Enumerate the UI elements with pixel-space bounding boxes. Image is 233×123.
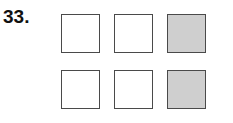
square-r2-c1	[61, 70, 100, 109]
square-r1-c2	[114, 14, 153, 53]
square-r2-c3-shaded	[167, 70, 206, 109]
square-r1-c3-shaded	[167, 14, 206, 53]
square-r2-c2	[114, 70, 153, 109]
square-r1-c1	[61, 14, 100, 53]
question-number: 33.	[3, 7, 29, 26]
